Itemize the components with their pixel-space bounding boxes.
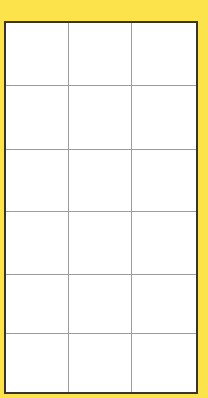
grid-cell-r1-c1[interactable] [6,23,69,86]
grid-cell-r5-c1[interactable] [6,275,69,334]
grid-cell-r4-c3[interactable] [132,212,196,275]
yellow-card-background [0,0,208,398]
grid-cell-r4-c2[interactable] [69,212,132,275]
grid-cell-r2-c3[interactable] [132,86,196,150]
grid-cell-r5-c2[interactable] [69,275,132,334]
grid-cell-r4-c1[interactable] [6,212,69,275]
grid-cell-r6-c1[interactable] [6,334,69,392]
grid-cell-r5-c3[interactable] [132,275,196,334]
grid-cell-r3-c1[interactable] [6,150,69,212]
empty-grid-table [4,21,198,394]
grid-cell-r1-c2[interactable] [69,23,132,86]
grid-cell-r3-c2[interactable] [69,150,132,212]
grid-cell-r2-c1[interactable] [6,86,69,150]
grid-cell-r6-c2[interactable] [69,334,132,392]
grid-cell-r3-c3[interactable] [132,150,196,212]
grid-cell-r2-c2[interactable] [69,86,132,150]
grid-cell-r6-c3[interactable] [132,334,196,392]
grid-cell-r1-c3[interactable] [132,23,196,86]
